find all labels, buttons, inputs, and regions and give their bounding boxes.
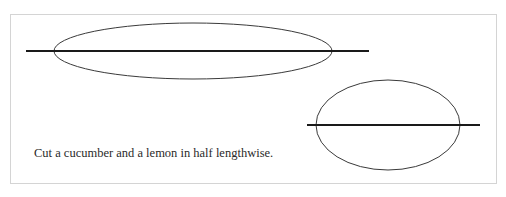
illustration <box>0 0 506 197</box>
figure-caption: Cut a cucumber and a lemon in half lengt… <box>34 146 273 161</box>
